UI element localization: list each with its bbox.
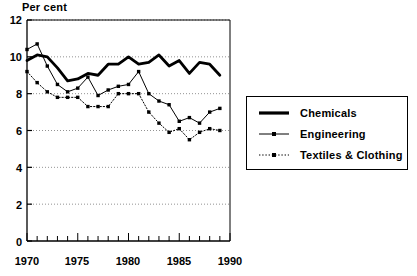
series-line-0 — [27, 55, 220, 81]
legend-label-engineering: Engineering — [300, 128, 366, 140]
series-marker — [25, 70, 28, 73]
series-marker — [137, 70, 140, 73]
series-marker — [66, 90, 69, 93]
series-marker — [35, 42, 38, 45]
legend-label-chemicals: Chemicals — [300, 107, 357, 119]
series-marker — [56, 83, 59, 86]
series-marker — [117, 92, 120, 95]
series-marker — [25, 48, 28, 51]
series-marker — [96, 105, 99, 108]
series-marker — [46, 64, 49, 67]
legend-swatch-dotted-marker-icon — [257, 148, 291, 162]
x-axis-ticks — [27, 233, 230, 241]
series-marker — [46, 90, 49, 93]
legend-item-engineering: Engineering — [257, 125, 366, 143]
series-marker — [188, 116, 191, 119]
series-marker — [198, 121, 201, 124]
series-marker — [96, 94, 99, 97]
series-marker — [147, 110, 150, 113]
series-marker — [218, 129, 221, 132]
series-marker — [86, 75, 89, 78]
series-marker — [167, 103, 170, 106]
series-marker — [56, 96, 59, 99]
legend-swatch-line-marker-icon — [257, 127, 291, 141]
series-marker — [107, 105, 110, 108]
series-marker — [157, 121, 160, 124]
series-marker — [127, 83, 130, 86]
legend-label-textiles-clothing: Textiles & Clothing — [300, 149, 403, 161]
legend-item-chemicals: Chemicals — [257, 104, 357, 122]
series-marker — [157, 99, 160, 102]
series-marker — [35, 81, 38, 84]
series-marker — [218, 107, 221, 110]
series-marker — [208, 110, 211, 113]
series-marker — [137, 92, 140, 95]
series-marker — [167, 131, 170, 134]
series-marker — [147, 92, 150, 95]
series-marker — [76, 86, 79, 89]
y-axis-ticks — [27, 20, 32, 241]
series-marker — [198, 131, 201, 134]
series-marker — [178, 120, 181, 123]
gridlines — [27, 20, 230, 204]
chart-figure: Per cent 12 10 8 6 4 2 0 1970 1975 1980 … — [0, 0, 417, 276]
series-marker — [107, 88, 110, 91]
series-marker — [76, 96, 79, 99]
series-marker — [66, 96, 69, 99]
series-marker — [188, 138, 191, 141]
series-marker — [208, 127, 211, 130]
legend-item-textiles-clothing: Textiles & Clothing — [257, 146, 403, 164]
series-marker — [127, 92, 130, 95]
chart-legend: Chemicals Engineering Textiles & Clothin… — [246, 96, 408, 170]
series-marker — [86, 105, 89, 108]
legend-swatch-solid-thick-icon — [257, 106, 291, 120]
series-marker — [117, 85, 120, 88]
series-marker — [178, 127, 181, 130]
